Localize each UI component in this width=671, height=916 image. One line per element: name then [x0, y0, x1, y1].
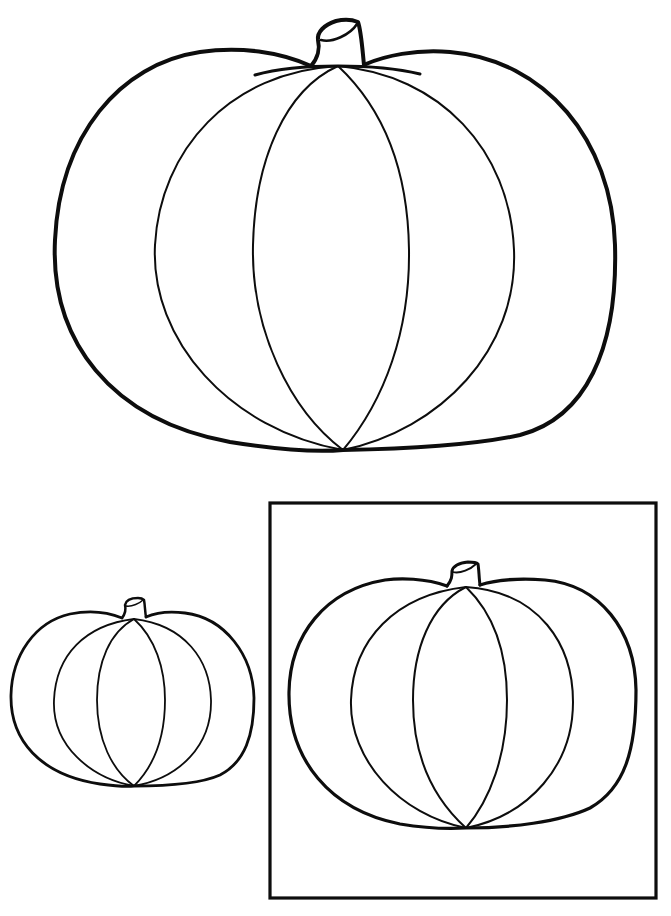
framed-pumpkin-rib-inner-left [413, 587, 466, 828]
small-pumpkin-rib-outer-right [134, 619, 211, 786]
framed-pumpkin-rib-outer-right [466, 587, 573, 828]
large-pumpkin [55, 20, 615, 451]
coloring-page [0, 0, 671, 916]
framed-pumpkin-rib-outer-left [351, 587, 466, 828]
small-pumpkin-rib-outer-left [54, 619, 134, 786]
framed-pumpkin [270, 503, 656, 898]
large-pumpkin-body [55, 50, 615, 451]
large-pumpkin-top-line [255, 66, 420, 75]
large-pumpkin-rib-outer-right [338, 66, 514, 450]
framed-pumpkin-body [289, 579, 636, 829]
small-pumpkin-rib-inner-left [97, 619, 134, 786]
large-pumpkin-rib-inner-left [253, 66, 343, 450]
large-pumpkin-rib-inner-right [338, 66, 409, 450]
framed-pumpkin-rib-inner-right [466, 587, 507, 828]
small-pumpkin-body [11, 612, 254, 786]
large-pumpkin-rib-outer-left [155, 66, 343, 450]
small-pumpkin-rib-inner-right [134, 619, 165, 786]
small-pumpkin [11, 598, 254, 786]
